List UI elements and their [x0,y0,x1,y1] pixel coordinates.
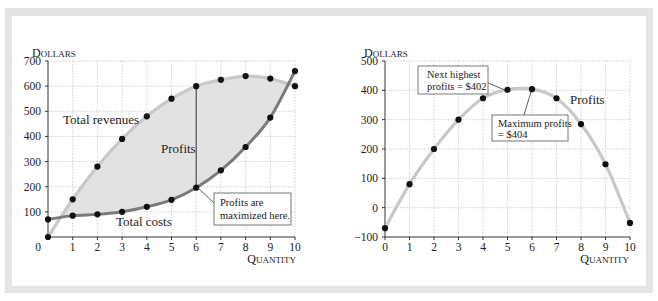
callout-line-2: maximized here. [220,210,290,221]
x-tick-label: 5 [169,241,175,253]
right-x-axis-label: QUANTITY [580,252,629,266]
x-tick-label: 6 [193,241,199,253]
data-point-total-revenues [144,113,150,119]
data-point-total-costs [193,185,199,191]
right-y-axis-label: DOLLARS [364,46,408,60]
x-tick-label: 4 [480,241,486,253]
x-tick-label: 1 [407,241,413,253]
data-point-profits [382,225,388,231]
y-tick-label: −100 [354,231,378,243]
callout-line-1: Next highest [427,69,480,80]
data-point-total-costs [292,68,298,74]
x-tick-label: 3 [119,241,125,253]
data-point-profits [553,95,559,101]
y-tick-label: 500 [24,105,42,117]
x-tick-label: 5 [505,241,511,253]
callout-pointer [197,187,214,203]
right-data-points [382,86,633,231]
data-point-total-costs [45,216,51,222]
x-tick-label: 7 [554,241,560,253]
x-tick-label: 9 [267,241,273,253]
data-point-profits [455,117,461,123]
x-tick-label: 7 [218,241,224,253]
data-point-total-revenues [70,196,76,202]
data-point-total-revenues [193,83,199,89]
profits-maximized-callout: Profits are maximized here. [197,187,291,225]
data-point-profits [480,95,486,101]
next-highest-callout: Next highest profits = $402 [418,66,505,94]
y-tick-label: 200 [361,143,379,155]
x-tick-label: 10 [624,241,636,253]
data-point-total-costs [94,211,100,217]
data-point-total-costs [168,197,174,203]
y-tick-label: 400 [24,130,42,142]
x-tick-label: 2 [431,241,437,253]
total-revenues-label: Total revenues [63,112,139,127]
y-tick-label: 300 [361,114,379,126]
data-point-profits [529,86,535,92]
data-point-total-revenues [119,136,125,142]
data-point-profits [627,220,633,226]
y-tick-label: 0 [372,202,378,214]
y-tick-label: 100 [24,206,42,218]
x-tick-label: 6 [529,241,535,253]
data-point-profits [578,121,584,127]
y-tick-label: 100 [361,172,379,184]
x-tick-label: 4 [144,241,150,253]
data-point-profits [406,181,412,187]
data-point-total-costs [243,144,249,150]
data-point-total-costs [144,204,150,210]
data-point-total-revenues [94,164,100,170]
data-point-profits [504,87,510,93]
data-point-total-revenues [243,73,249,79]
y-tick-label: 300 [24,156,42,168]
y-tick-label: 400 [361,84,379,96]
data-point-total-revenues [267,76,273,82]
y-tick-label: 200 [24,181,42,193]
left-chart: 123456789101002003004005006007000 DOLLAR… [24,46,301,266]
chart-svg: 123456789101002003004005006007000 DOLLAR… [0,0,658,301]
data-point-total-revenues [168,96,174,102]
callout-pointer [524,92,531,115]
data-point-total-revenues [292,83,298,89]
x-tick-label: 1 [70,241,76,253]
data-point-total-revenues [45,234,51,240]
data-point-total-costs [267,114,273,120]
profits-region-label: Profits [161,141,196,156]
callout-pointer [488,83,505,90]
left-x-axis-label: QUANTITY [247,252,296,266]
callout-line-2: = $404 [498,129,528,140]
left-y-axis-label: DOLLARS [32,46,76,60]
callout-line-2: profits = $402 [427,81,487,92]
data-point-profits [431,146,437,152]
x-tick-label: 9 [603,241,609,253]
total-costs-label: Total costs [116,214,172,229]
callout-line-1: Profits are [220,197,264,208]
x-tick-label: 2 [95,241,101,253]
right-chart: 012345678910−1000100200300400500 DOLLARS… [354,46,636,266]
right-tick-labels: 012345678910−1000100200300400500 [354,55,636,253]
x-tick-label: 3 [456,241,462,253]
data-point-total-costs [70,213,76,219]
x-tick-label: 0 [382,241,388,253]
data-point-total-costs [218,167,224,173]
y-tick-label: 600 [24,80,42,92]
callout-line-1: Maximum profits [498,118,572,129]
x-tick-label: 10 [289,241,301,253]
data-point-profits [602,161,608,167]
profits-curve-label: Profits [570,92,605,107]
data-point-total-revenues [218,77,224,83]
origin-label: 0 [35,241,41,253]
